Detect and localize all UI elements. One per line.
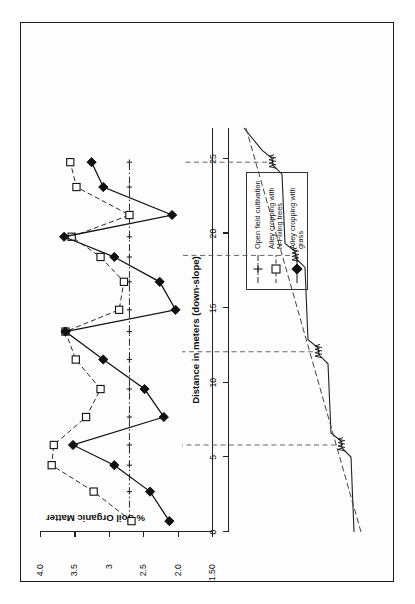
data-point-marker [90, 488, 97, 495]
data-point-marker [48, 462, 55, 469]
data-point-marker [110, 252, 119, 261]
data-point-marker [127, 442, 132, 447]
data-point-marker [128, 518, 135, 525]
data-point-marker [110, 461, 119, 470]
page-frame: 4.0 3.5 3 2.5 2.0 1.50 % Soil Organic Ma… [20, 22, 394, 582]
data-point-marker [126, 211, 133, 218]
data-point-marker [97, 385, 104, 392]
data-point-marker [140, 384, 149, 393]
data-point-marker [127, 307, 132, 312]
data-point-marker [145, 487, 154, 496]
data-point-marker [99, 355, 108, 364]
y-tick-label-0: 4.0 [35, 564, 45, 576]
x-tick-label-2: 10 [208, 378, 218, 388]
y-tick-3 [143, 532, 144, 537]
data-point-marker [116, 306, 123, 313]
data-point-marker [127, 184, 132, 189]
data-point-marker [159, 412, 168, 421]
y-tick-4 [178, 532, 179, 537]
y-tick-label-1: 3.5 [69, 564, 79, 576]
data-point-marker [97, 253, 104, 260]
data-point-marker [59, 232, 68, 241]
data-point-marker [73, 183, 80, 190]
y-tick-1 [74, 532, 75, 537]
slope-profile-drawing [228, 128, 378, 532]
original-slope-line [246, 128, 361, 532]
x-tick-label-4: 20 [208, 229, 218, 239]
x-tick-label-1: 5 [208, 455, 218, 460]
data-point-marker [50, 441, 57, 448]
x-axis-title: Distance in meters (down-slope) [190, 128, 201, 532]
data-point-marker [127, 254, 132, 259]
data-point-marker [171, 305, 180, 314]
slope-profile-panel: Distance in meters (down-slope) 0 5 10 1… [228, 128, 378, 532]
ground-surface-line [244, 128, 354, 532]
data-point-marker [127, 160, 132, 165]
data-point-marker [87, 158, 96, 167]
y-tick-label-5: 1.50 [207, 564, 217, 581]
y-tick-2 [109, 532, 110, 537]
data-point-marker [167, 210, 176, 219]
data-point-marker [127, 329, 132, 334]
series-line-2 [64, 162, 175, 521]
data-point-marker [127, 489, 132, 494]
y-tick-label-4: 2.0 [173, 564, 183, 576]
y-tick-label-3: 2.5 [138, 564, 148, 576]
data-point-marker [120, 278, 127, 285]
y-tick-0 [40, 532, 41, 537]
data-point-marker [67, 159, 74, 166]
data-point-marker [165, 517, 174, 526]
data-point-marker [155, 277, 164, 286]
series-line-1 [52, 162, 132, 521]
y-tick-label-2: 3 [104, 564, 114, 569]
x-tick-label-0: 0 [208, 530, 218, 535]
data-point-marker [68, 440, 77, 449]
data-point-marker [127, 386, 132, 391]
data-point-marker [127, 234, 132, 239]
x-tick-label-3: 15 [208, 303, 218, 313]
data-point-marker [72, 356, 79, 363]
figure: 4.0 3.5 3 2.5 2.0 1.50 % Soil Organic Ma… [32, 60, 384, 590]
data-point-marker [127, 414, 132, 419]
data-point-marker [127, 463, 132, 468]
data-point-marker [82, 413, 89, 420]
data-point-marker [127, 357, 132, 362]
data-point-marker [99, 182, 108, 191]
